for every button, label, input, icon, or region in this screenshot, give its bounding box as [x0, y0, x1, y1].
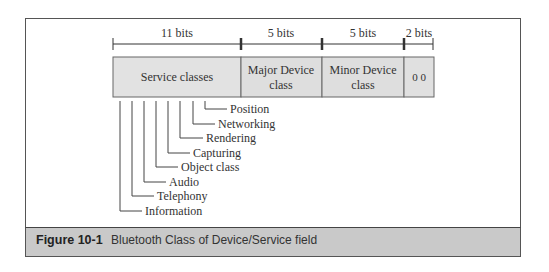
- service-bit-label: Networking: [218, 117, 275, 131]
- bit-width-label: 5 bits: [350, 26, 377, 40]
- field-label: class: [269, 78, 293, 92]
- field-label: Major Device: [248, 63, 314, 77]
- service-bit-label: Information: [145, 204, 202, 218]
- field-label: Service classes: [141, 70, 214, 84]
- figure-caption: Bluetooth Class of Device/Service field: [111, 233, 317, 247]
- bit-width-label: 11 bits: [161, 26, 193, 40]
- service-bit-label: Position: [230, 102, 269, 116]
- bit-width-label: 2 bits: [406, 26, 433, 40]
- service-bit-label: Rendering: [206, 131, 256, 145]
- field-label: Minor Device: [330, 63, 397, 77]
- service-bit-label: Telephony: [157, 189, 207, 203]
- figure-caption-bar: Figure 10-1 Bluetooth Class of Device/Se…: [25, 227, 521, 257]
- service-bit-label: Capturing: [193, 146, 241, 160]
- field-label: class: [351, 78, 375, 92]
- figure-number: Figure 10-1: [36, 233, 103, 247]
- service-bit-label: Object class: [181, 160, 240, 174]
- field-label: 0 0: [412, 71, 426, 83]
- service-bit-label: Audio: [169, 175, 199, 189]
- bit-width-label: 5 bits: [268, 26, 295, 40]
